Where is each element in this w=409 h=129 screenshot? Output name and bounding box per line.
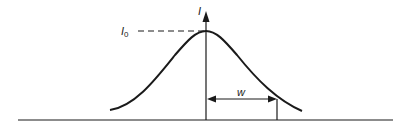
width-arrowhead-left-icon <box>207 96 216 103</box>
peak-label-subscript: 0 <box>124 30 129 39</box>
axis-label: I <box>198 5 201 17</box>
gaussian-diagram: I I0 w <box>0 0 409 129</box>
width-label: w <box>237 86 246 98</box>
peak-label: I0 <box>121 25 129 39</box>
width-arrowhead-right-icon <box>268 96 277 103</box>
axis-arrowhead-icon <box>203 11 210 22</box>
